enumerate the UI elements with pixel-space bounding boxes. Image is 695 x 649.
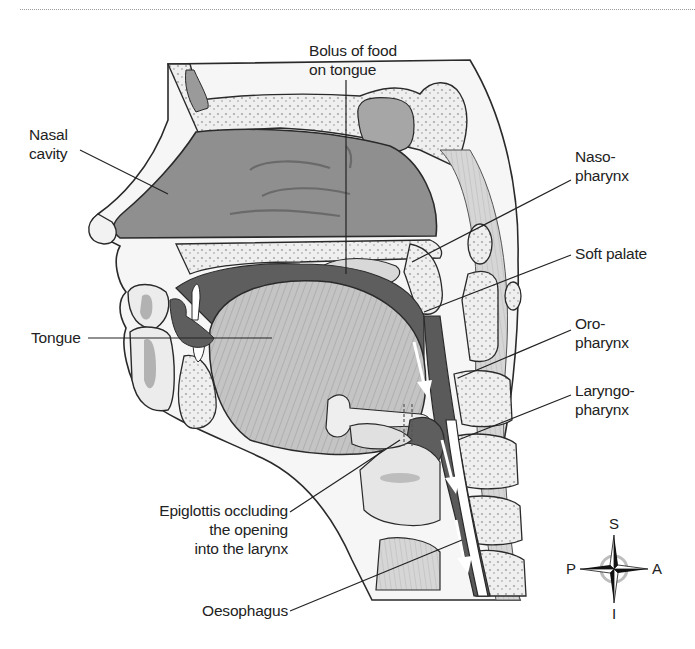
label-oropharynx: Oro- pharynx (575, 314, 629, 352)
label-soft-palate-line1: Soft palate (575, 244, 647, 263)
label-nasal-line1: Nasal (29, 125, 68, 144)
label-nasal-cavity: Nasal cavity (29, 125, 68, 163)
compass-inferior-label: I (612, 605, 616, 622)
compass-anterior-label: A (652, 560, 662, 577)
label-epiglottis-line2: the opening (159, 520, 288, 539)
label-epiglottis: Epiglottis occluding the opening into th… (159, 501, 288, 558)
label-nasal-line2: cavity (29, 144, 68, 163)
label-bolus-line1: Bolus of food (309, 41, 397, 60)
label-epiglottis-line3: into the larynx (159, 539, 288, 558)
label-nasopharynx: Naso- pharynx (575, 147, 629, 185)
compass-rose (580, 535, 648, 603)
label-nasopharynx-line1: Naso- (575, 147, 629, 166)
label-oesophagus: Oesophagus (202, 601, 288, 620)
label-oropharynx-line2: pharynx (575, 333, 629, 352)
compass-superior-label: S (609, 515, 619, 532)
label-soft-palate: Soft palate (575, 244, 647, 263)
compass-posterior-label: P (566, 560, 576, 577)
label-tongue-line1: Tongue (31, 328, 81, 347)
lips (128, 285, 174, 411)
label-oropharynx-line1: Oro- (575, 314, 629, 333)
label-laryngopharynx-line1: Laryngo- (575, 381, 635, 400)
label-tongue: Tongue (31, 328, 81, 347)
label-bolus-line2: on tongue (309, 60, 397, 79)
label-laryngopharynx-line2: pharynx (575, 400, 635, 419)
label-bolus: Bolus of food on tongue (309, 41, 397, 79)
label-epiglottis-line1: Epiglottis occluding (159, 501, 288, 520)
label-laryngopharynx: Laryngo- pharynx (575, 381, 635, 419)
label-oesophagus-line1: Oesophagus (202, 601, 288, 620)
label-nasopharynx-line2: pharynx (575, 166, 629, 185)
